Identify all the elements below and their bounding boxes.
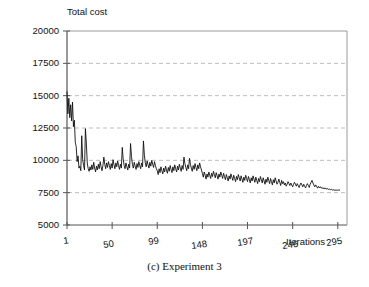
y-tick-label: 20000 bbox=[15, 25, 59, 36]
figure-experiment-3: Total cost Iterations 500075001000012500… bbox=[0, 0, 369, 287]
x-tick-label: 50 bbox=[103, 238, 115, 250]
y-tick-label: 10000 bbox=[15, 154, 59, 165]
x-tick-label: 295 bbox=[325, 235, 342, 248]
y-tick-label: 17500 bbox=[15, 57, 59, 68]
x-tick-label: 99 bbox=[148, 235, 160, 247]
y-tick-label: 12500 bbox=[15, 122, 59, 133]
y-axis-title: Total cost bbox=[67, 6, 107, 17]
y-tick-label: 7500 bbox=[15, 187, 59, 198]
figure-caption: (c) Experiment 3 bbox=[0, 260, 369, 272]
y-tick-label: 5000 bbox=[15, 219, 59, 230]
axes bbox=[67, 31, 347, 225]
gridlines bbox=[68, 63, 347, 192]
data-series-total-cost bbox=[67, 92, 340, 191]
x-tick-label: 148 bbox=[191, 238, 208, 251]
x-tick-label: 197 bbox=[236, 235, 253, 248]
x-tick-label: 246 bbox=[281, 238, 298, 251]
y-tick-label: 15000 bbox=[15, 90, 59, 101]
